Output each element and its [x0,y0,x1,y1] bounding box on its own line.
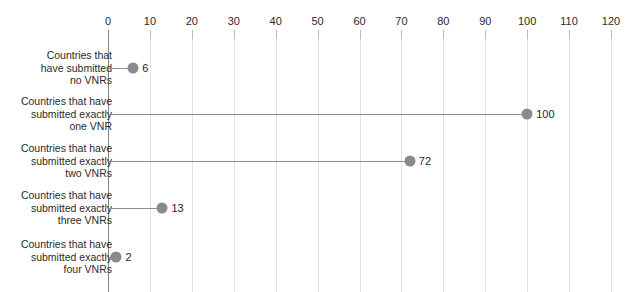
x-axis-tick-mark [192,30,193,39]
x-axis-tick-label: 110 [560,14,578,28]
category-label: Countries that havesubmitted exactlyfour… [0,238,112,276]
category-label-line: have submitted [0,62,112,75]
category-label-line: Countries that [0,49,112,62]
x-axis-tick-mark [611,30,612,39]
x-axis-tick-mark [443,30,444,39]
x-axis-tick-label: 20 [186,14,198,28]
x-axis-tick-mark [527,30,528,39]
x-axis-tick-label: 70 [395,14,407,28]
category-label-line: Countries that have [0,238,112,251]
category-label-line: submitted exactly [0,202,112,215]
data-value-label: 6 [142,62,148,74]
x-axis-tick-label: 90 [479,14,491,28]
gridline [443,30,444,292]
data-stem [108,114,527,115]
x-axis-tick-label: 60 [353,14,365,28]
category-label-line: submitted exactly [0,155,112,168]
gridline [485,30,486,292]
data-point-marker[interactable] [111,252,122,263]
x-axis-tick-label: 80 [437,14,449,28]
x-axis-tick-labels: 0102030405060708090100110120 [0,14,630,30]
x-axis-tick-mark [234,30,235,39]
category-label-line: submitted exactly [0,251,112,264]
data-point-marker[interactable] [128,63,139,74]
category-label-line: no VNRs [0,74,112,87]
category-label-line: four VNRs [0,263,112,276]
gridline [569,30,570,292]
data-value-label: 72 [419,155,431,167]
x-axis-tick-label: 50 [311,14,323,28]
category-label-line: Countries that have [0,189,112,202]
data-stem [108,208,162,209]
category-label: Countries thathave submittedno VNRs [0,49,112,87]
x-axis-tick-label: 30 [228,14,240,28]
data-point-marker[interactable] [157,203,168,214]
x-axis-tick-label: 0 [105,14,111,28]
x-axis-tick-mark [569,30,570,39]
category-label: Countries that havesubmitted exactlytwo … [0,142,112,180]
x-axis-tick-mark [401,30,402,39]
x-axis-tick-mark [485,30,486,39]
x-axis-tick-mark [150,30,151,39]
category-label-line: Countries that have [0,142,112,155]
category-label-line: three VNRs [0,214,112,227]
data-point-marker[interactable] [522,109,533,120]
x-axis-tick-label: 120 [602,14,620,28]
gridline [527,30,528,292]
x-axis-tick-label: 100 [518,14,536,28]
category-label-line: Countries that have [0,95,112,108]
category-label: Countries that havesubmitted exactlyone … [0,95,112,133]
chart-container: 0102030405060708090100110120 Countries t… [0,0,630,292]
category-label-line: two VNRs [0,167,112,180]
category-label-line: one VNR [0,120,112,133]
x-axis-tick-mark [360,30,361,39]
x-axis-tick-mark [108,30,109,39]
data-value-label: 13 [171,202,183,214]
x-axis-tick-mark [318,30,319,39]
data-value-label: 2 [125,251,131,263]
category-label-line: submitted exactly [0,108,112,121]
data-value-label: 100 [536,108,554,120]
data-point-marker[interactable] [404,156,415,167]
data-stem [108,161,410,162]
category-label: Countries that havesubmitted exactlythre… [0,189,112,227]
x-axis-tick-mark [276,30,277,39]
gridline [611,30,612,292]
x-axis-tick-label: 40 [270,14,282,28]
x-axis-tick-label: 10 [144,14,156,28]
